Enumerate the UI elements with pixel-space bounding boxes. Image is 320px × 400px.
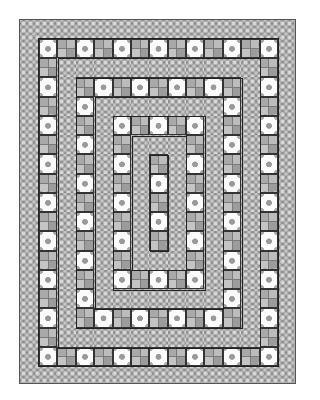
four-patch-block: [223, 308, 241, 327]
dot-block: [39, 77, 57, 96]
fabric-strip-cell: [94, 154, 112, 173]
dot-block: [186, 39, 204, 58]
dot-block: [260, 347, 278, 366]
fabric-strip-cell: [241, 251, 259, 270]
four-patch-block: [76, 77, 94, 96]
dot-block: [260, 77, 278, 96]
fabric-strip-cell: [149, 135, 167, 154]
fabric-strip-cell: [131, 231, 149, 250]
dot-block: [149, 116, 167, 135]
fabric-strip-cell: [113, 328, 131, 347]
dot-block: [223, 289, 241, 308]
dot-block: [76, 347, 94, 366]
fabric-strip-cell: [57, 308, 75, 327]
fabric-strip-cell: [131, 212, 149, 231]
fabric-strip-cell: [131, 154, 149, 173]
fabric-strip-cell: [241, 308, 259, 327]
four-patch-block: [260, 289, 278, 308]
four-patch-block: [186, 251, 204, 270]
fabric-strip-cell: [57, 97, 75, 116]
fabric-strip-cell: [149, 289, 167, 308]
fabric-strip-cell: [223, 58, 241, 77]
dot-block: [260, 308, 278, 327]
dot-block: [223, 347, 241, 366]
fabric-strip-cell: [204, 212, 222, 231]
fabric-strip-cell: [57, 289, 75, 308]
four-patch-block: [149, 231, 167, 250]
four-patch-block: [260, 58, 278, 77]
four-patch-block: [186, 174, 204, 193]
four-patch-block: [186, 308, 204, 327]
four-patch-block: [260, 251, 278, 270]
four-patch-block: [76, 231, 94, 250]
fabric-strip-cell: [131, 174, 149, 193]
fabric-strip-cell: [168, 289, 186, 308]
four-patch-block: [113, 135, 131, 154]
fabric-strip-cell: [131, 251, 149, 270]
four-patch-block: [131, 116, 149, 135]
four-patch-block: [168, 39, 186, 58]
fabric-strip-cell: [57, 135, 75, 154]
dot-block: [131, 308, 149, 327]
fabric-strip-cell: [223, 328, 241, 347]
four-patch-block: [260, 97, 278, 116]
fabric-strip-cell: [149, 251, 167, 270]
dot-block: [223, 97, 241, 116]
dot-block: [39, 270, 57, 289]
four-patch-block: [76, 154, 94, 173]
dot-block: [186, 116, 204, 135]
fabric-strip-cell: [94, 212, 112, 231]
dot-block: [186, 231, 204, 250]
four-patch-block: [113, 251, 131, 270]
fabric-strip-cell: [168, 231, 186, 250]
fabric-strip-cell: [94, 251, 112, 270]
dot-block: [76, 289, 94, 308]
fabric-strip-cell: [204, 58, 222, 77]
fabric-strip-cell: [186, 97, 204, 116]
dot-block: [260, 39, 278, 58]
fabric-strip-cell: [241, 328, 259, 347]
dot-block: [76, 97, 94, 116]
fabric-strip-cell: [204, 270, 222, 289]
four-patch-block: [260, 174, 278, 193]
fabric-strip-cell: [204, 154, 222, 173]
four-patch-block: [223, 193, 241, 212]
four-patch-block: [57, 347, 75, 366]
fabric-strip-cell: [241, 289, 259, 308]
dot-block: [186, 154, 204, 173]
fabric-strip-cell: [241, 212, 259, 231]
dot-block: [39, 193, 57, 212]
dot-block: [186, 270, 204, 289]
fabric-strip-cell: [204, 231, 222, 250]
fabric-strip-cell: [168, 97, 186, 116]
four-patch-block: [39, 135, 57, 154]
four-patch-block: [149, 308, 167, 327]
fabric-strip-cell: [94, 270, 112, 289]
fabric-strip-cell: [131, 97, 149, 116]
dot-block: [223, 212, 241, 231]
fabric-strip-cell: [94, 193, 112, 212]
fabric-strip-cell: [94, 135, 112, 154]
four-patch-block: [149, 154, 167, 173]
fabric-strip-cell: [94, 328, 112, 347]
four-patch-block: [57, 39, 75, 58]
four-patch-block: [76, 270, 94, 289]
fabric-strip-cell: [168, 328, 186, 347]
dot-block: [223, 135, 241, 154]
four-patch-block: [39, 328, 57, 347]
dot-block: [204, 77, 222, 96]
dot-block: [260, 193, 278, 212]
four-patch-block: [94, 39, 112, 58]
fabric-strip-cell: [76, 58, 94, 77]
dot-block: [113, 39, 131, 58]
fabric-strip-cell: [113, 97, 131, 116]
four-patch-block: [39, 212, 57, 231]
four-patch-block: [186, 135, 204, 154]
four-patch-block: [113, 308, 131, 327]
dot-block: [39, 231, 57, 250]
fabric-strip-cell: [204, 174, 222, 193]
dot-block: [94, 308, 112, 327]
fabric-strip-cell: [241, 231, 259, 250]
fabric-strip-cell: [57, 116, 75, 135]
dot-block: [39, 39, 57, 58]
